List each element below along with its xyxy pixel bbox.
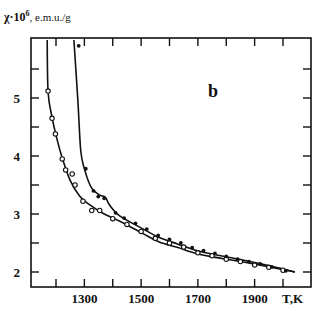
open-circle-marker	[111, 216, 115, 220]
open-circle-marker	[181, 245, 185, 249]
axes-box	[31, 38, 311, 287]
filled-circle-marker	[114, 211, 118, 215]
y-tick-label: 3	[14, 207, 21, 222]
open-circle-marker	[60, 157, 64, 161]
open-circle-marker	[125, 222, 129, 226]
open-circle-marker	[196, 251, 200, 255]
filled-circle-marker	[247, 260, 251, 264]
open-circle-marker	[70, 172, 74, 176]
filled-circle-marker	[284, 269, 288, 273]
filled-circle-marker	[92, 189, 96, 193]
filled-circle-marker	[224, 254, 228, 258]
lower-curve	[47, 40, 295, 272]
filled-circle-marker	[134, 221, 138, 225]
filled-circle-marker	[122, 216, 126, 220]
open-circle-marker	[252, 263, 256, 267]
axis-tick-labels: 13001500170019002345	[14, 91, 268, 306]
filled-circle-marker	[190, 246, 194, 250]
open-circle-marker	[73, 183, 77, 187]
filled-circle-marker	[258, 262, 262, 266]
open-circle-marker	[139, 229, 143, 233]
upper-curve	[74, 40, 295, 272]
open-circle-marker	[81, 199, 85, 203]
filled-circle-marker	[213, 252, 217, 256]
open-circle-marker	[90, 208, 94, 212]
filled-circle-marker	[96, 195, 100, 199]
filled-circle-marker	[77, 44, 81, 48]
x-axis-label: T,K	[282, 291, 304, 306]
x-tick-label: 1500	[128, 291, 154, 306]
data-curves	[47, 40, 295, 272]
filled-circle-marker	[179, 241, 183, 245]
plot-area: 13001500170019002345 b T,K	[0, 0, 329, 320]
filled-circle-marker	[270, 265, 274, 269]
x-tick-label: 1900	[242, 291, 268, 306]
open-circle-marker	[46, 89, 50, 93]
filled-circle-marker	[168, 238, 172, 242]
axis-ticks	[31, 38, 311, 287]
open-circle-marker	[53, 132, 57, 136]
y-tick-label: 4	[14, 149, 21, 164]
y-tick-label: 2	[14, 265, 21, 280]
filled-circle-marker	[156, 234, 160, 238]
open-circle-marker	[167, 241, 171, 245]
open-circle-marker	[63, 168, 67, 172]
chart: χ·106, e.m.u./g 13001500170019002345 b T…	[0, 0, 329, 320]
filled-circle-marker	[236, 257, 240, 261]
open-circle-marker	[97, 208, 101, 212]
x-tick-label: 1700	[185, 291, 211, 306]
filled-circle-marker	[102, 196, 106, 200]
y-tick-label: 5	[14, 91, 21, 106]
filled-circle-marker	[84, 167, 88, 171]
filled-circle-marker	[202, 249, 206, 253]
filled-circle-marker	[145, 227, 149, 231]
axes-frame	[31, 38, 311, 287]
open-circle-marker	[50, 116, 54, 120]
x-tick-label: 1300	[71, 291, 97, 306]
panel-label: b	[208, 81, 218, 101]
